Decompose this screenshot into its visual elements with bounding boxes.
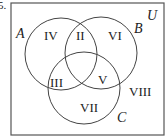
universe-label: U — [147, 8, 158, 23]
set-c-label: C — [117, 110, 127, 125]
region-viii: VIII — [129, 84, 151, 99]
venn-diagram: 5. U A B C IV II VI III V VIII VII — [0, 0, 167, 138]
region-vii: VII — [80, 100, 98, 115]
region-v: V — [98, 72, 108, 87]
region-iv: IV — [44, 28, 58, 43]
region-iii: III — [50, 75, 63, 90]
region-vi: VI — [108, 28, 122, 43]
set-b-label: B — [134, 21, 143, 36]
region-ii: II — [76, 28, 85, 43]
set-a-label: A — [15, 26, 25, 41]
question-number: 5. — [0, 0, 7, 11]
